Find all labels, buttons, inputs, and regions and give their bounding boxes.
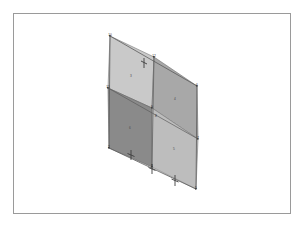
node-dot[interactable] [153, 56, 155, 58]
node-dot[interactable] [151, 107, 153, 109]
node-dot[interactable] [108, 147, 110, 149]
node-dot[interactable] [197, 138, 199, 140]
node-dot[interactable] [109, 35, 111, 37]
node-dot[interactable] [195, 188, 197, 190]
node-dot[interactable] [196, 85, 198, 87]
mesh-scene[interactable] [0, 0, 305, 228]
mesh-viewport[interactable]: 10 12 6 11 9 8 7 2 1 5 3 4 6 5 [0, 0, 305, 228]
node-dot[interactable] [107, 87, 109, 89]
